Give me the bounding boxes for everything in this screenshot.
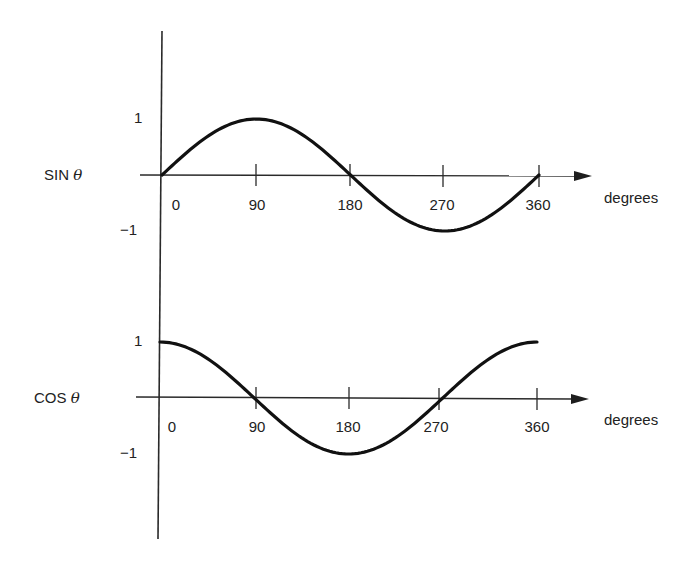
sin-x-axis-arrow-icon <box>574 171 592 181</box>
sin-x-axis-unit: degrees <box>604 190 658 205</box>
sin-tick-0: 0 <box>172 197 180 212</box>
cos-x-axis-arrow-icon <box>571 394 589 404</box>
cos-tick-180: 180 <box>335 419 360 434</box>
cos-y-label-pos: 1 <box>134 333 142 348</box>
sin-tick-360: 360 <box>525 197 550 212</box>
sin-axis-label: SIN θ <box>44 167 82 183</box>
chart-canvas <box>0 0 698 568</box>
cos-tick-270: 270 <box>423 419 448 434</box>
sin-tick-270: 270 <box>429 197 454 212</box>
sin-tick-90: 90 <box>249 197 266 212</box>
theta-symbol: θ <box>71 389 80 407</box>
cos-tick-360: 360 <box>524 419 549 434</box>
cos-x-axis <box>136 397 575 399</box>
vertical-axis <box>158 31 162 539</box>
sin-tick-180: 180 <box>337 197 362 212</box>
cos-y-label-neg: −1 <box>120 445 137 460</box>
theta-symbol: θ <box>73 166 82 184</box>
sin-x-axis <box>140 175 578 176</box>
sin-label-text: SIN <box>44 166 69 183</box>
cos-tick-90: 90 <box>249 419 266 434</box>
cos-axis-label: COS θ <box>34 390 80 406</box>
sin-y-label-neg: −1 <box>120 222 137 237</box>
sin-y-label-pos: 1 <box>134 110 142 125</box>
cos-x-axis-unit: degrees <box>604 412 658 427</box>
cos-tick-0: 0 <box>168 419 176 434</box>
cos-label-text: COS <box>34 389 67 406</box>
